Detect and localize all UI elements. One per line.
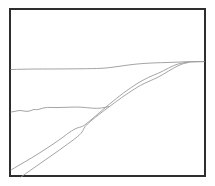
screenshot-root [0, 0, 215, 186]
upper-diagonal-ridge [11, 62, 204, 170]
mid-ground-wavy-ridge [11, 107, 109, 112]
landscape-contour-drawing [0, 0, 215, 186]
lower-diagonal-ridge [21, 63, 188, 177]
contour-lines-group [11, 62, 204, 178]
